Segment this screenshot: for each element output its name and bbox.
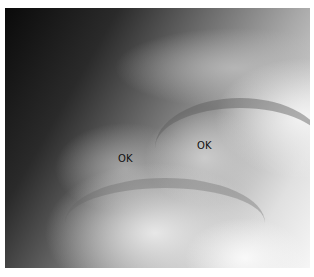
ossification-label-right: OK [197, 140, 212, 151]
joint-line-lower [65, 178, 265, 268]
xray-image [5, 8, 310, 268]
ossification-label-left: OK [118, 153, 133, 164]
